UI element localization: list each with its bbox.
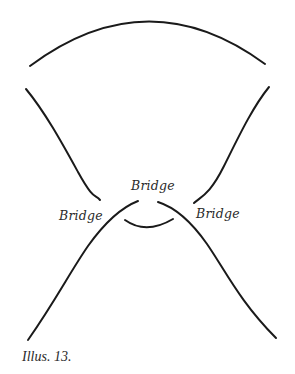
top-arc [30,21,265,66]
left-upper-curve [26,89,100,200]
figure-caption: Illus. 13. [22,350,71,364]
bridge-label-right: Bridge [196,208,240,221]
bridge-label-left: Bridge [59,210,103,223]
illustration-canvas: Bridge Bridge Bridge Illus. 13. [0,0,295,374]
right-lower-curve [158,202,276,338]
right-upper-curve [194,87,269,203]
bridge-label-center: Bridge [131,180,175,193]
inner-arc [125,219,173,227]
